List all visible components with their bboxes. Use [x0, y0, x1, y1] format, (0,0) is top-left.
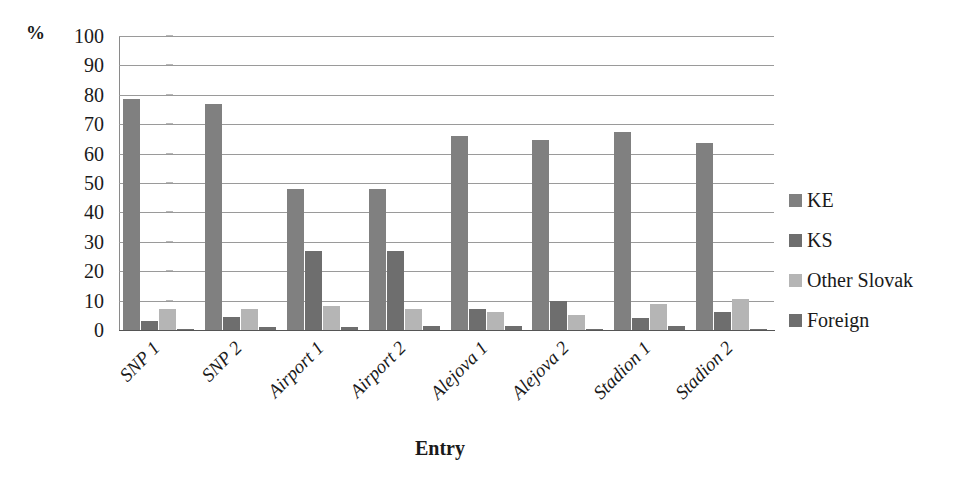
- x-axis-title: Entry: [0, 437, 880, 460]
- bar-group: [365, 36, 447, 330]
- x-axis-tick-slot: Stadion 2: [692, 331, 774, 431]
- legend-item[interactable]: Foreign: [789, 300, 969, 340]
- bar: [650, 304, 667, 330]
- bar: [487, 312, 504, 330]
- bar: [205, 104, 222, 330]
- legend-item[interactable]: KE: [789, 180, 969, 220]
- bar: [532, 140, 549, 330]
- bar: [696, 143, 713, 330]
- y-axis-tick-label: 50: [84, 173, 104, 193]
- legend-item[interactable]: KS: [789, 220, 969, 260]
- bar: [714, 312, 731, 330]
- legend-swatch-icon: [789, 274, 802, 287]
- legend-swatch-icon: [789, 194, 802, 207]
- bar-group: [447, 36, 529, 330]
- y-axis-tick-label: 40: [84, 202, 104, 222]
- y-axis-tick-label: 80: [84, 85, 104, 105]
- legend-label: Other Slovak: [807, 269, 913, 292]
- y-axis-tick-label: 90: [84, 55, 104, 75]
- bar: [241, 309, 258, 330]
- bar-group: [610, 36, 692, 330]
- bar: [287, 189, 304, 330]
- bar-group: [528, 36, 610, 330]
- y-axis-tick-label: 60: [84, 144, 104, 164]
- bar-chart: % 1009080706050403020100 SNP 1SNP 2Airpo…: [0, 0, 974, 497]
- y-axis-tick-label: 0: [94, 320, 104, 340]
- bar: [405, 309, 422, 330]
- legend-label: Foreign: [807, 309, 869, 332]
- bar: [387, 251, 404, 330]
- legend-label: KS: [807, 229, 833, 252]
- bar: [469, 309, 486, 330]
- bar: [323, 306, 340, 330]
- x-axis-tick-label: SNP 1: [115, 337, 164, 386]
- bar: [568, 315, 585, 330]
- bar-group: [119, 36, 201, 330]
- y-axis-unit-label: %: [26, 22, 45, 44]
- bar: [632, 318, 649, 330]
- bars-layer: [119, 36, 774, 330]
- legend-label: KE: [807, 189, 834, 212]
- y-axis-tick-label: 30: [84, 232, 104, 252]
- x-axis-tick-labels: SNP 1SNP 2Airport 1Airport 2Alejova 1Ale…: [119, 331, 774, 431]
- x-axis-tick-label: SNP 2: [197, 337, 246, 386]
- bar: [732, 299, 749, 330]
- legend-item[interactable]: Other Slovak: [789, 260, 969, 300]
- y-axis-tick-label: 70: [84, 114, 104, 134]
- legend-swatch-icon: [789, 234, 802, 247]
- y-axis-tick-label: 20: [84, 261, 104, 281]
- bar-group: [201, 36, 283, 330]
- bar: [369, 189, 386, 330]
- x-axis-tick-slot: SNP 1: [119, 331, 201, 431]
- bar: [305, 251, 322, 330]
- y-axis-tick-labels: 1009080706050403020100: [54, 26, 110, 340]
- bar: [123, 99, 140, 330]
- bar-group: [283, 36, 365, 330]
- bar: [141, 321, 158, 330]
- bar-group: [692, 36, 774, 330]
- plot-area: [119, 36, 774, 330]
- bar: [451, 136, 468, 330]
- legend-swatch-icon: [789, 314, 802, 327]
- y-axis-tick-label: 100: [74, 26, 104, 46]
- bar: [614, 132, 631, 330]
- bar: [159, 309, 176, 330]
- chart-legend: KEKSOther SlovakForeign: [789, 180, 969, 340]
- bar: [550, 301, 567, 330]
- bar: [223, 317, 240, 330]
- y-axis-tick-label: 10: [84, 291, 104, 311]
